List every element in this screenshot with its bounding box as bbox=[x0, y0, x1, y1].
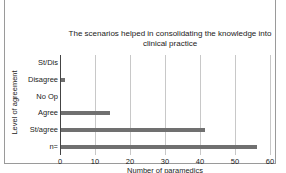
y-axis-line bbox=[60, 55, 61, 155]
x-tick-label: 50 bbox=[225, 157, 245, 166]
y-axis-title: Level of agreement bbox=[10, 63, 19, 143]
gridline bbox=[95, 55, 96, 155]
y-tick-label: St/Dis bbox=[38, 58, 58, 67]
plot-area bbox=[60, 55, 270, 155]
x-tick-label: 20 bbox=[120, 157, 140, 166]
x-tick-label: 40 bbox=[190, 157, 210, 166]
y-tick-label: No Op bbox=[36, 92, 58, 101]
bar bbox=[61, 145, 257, 149]
x-axis-title: Number of paramedics bbox=[60, 166, 270, 173]
gridline bbox=[165, 55, 166, 155]
chart-title-line-2: clinical practice bbox=[60, 39, 280, 49]
bar bbox=[61, 111, 110, 115]
chart-title-line-1: The scenarios helped in consolidating th… bbox=[60, 29, 280, 39]
chart-title: The scenarios helped in consolidating th… bbox=[60, 29, 280, 49]
y-tick-label: Disagree bbox=[28, 75, 58, 84]
x-tick-label: 30 bbox=[155, 157, 175, 166]
bar bbox=[61, 128, 205, 132]
y-tick-label: Agree bbox=[38, 108, 58, 117]
gridline bbox=[235, 55, 236, 155]
gridline bbox=[130, 55, 131, 155]
x-tick-label: 10 bbox=[85, 157, 105, 166]
gridline bbox=[270, 55, 271, 155]
x-tick-label: 60 bbox=[260, 157, 280, 166]
x-tick-label: 0 bbox=[50, 157, 70, 166]
bar bbox=[61, 78, 65, 82]
gridline bbox=[200, 55, 201, 155]
y-tick-label: St/agree bbox=[30, 125, 58, 134]
y-tick-label: n= bbox=[49, 142, 58, 151]
